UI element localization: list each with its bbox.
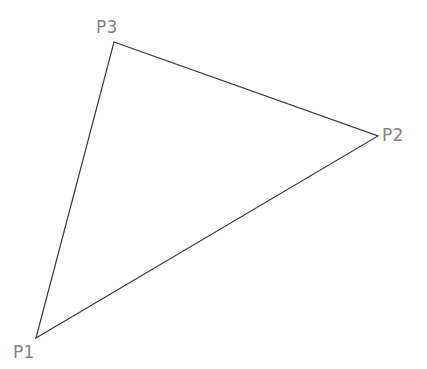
- vertex-label-p3: P3: [96, 19, 117, 36]
- triangle-diagram-canvas: P1 P2 P3: [0, 0, 427, 369]
- triangle-shape-svg: [0, 0, 427, 369]
- triangle-outline: [36, 42, 378, 338]
- vertex-label-p2: P2: [382, 127, 403, 144]
- vertex-label-p1: P1: [13, 344, 34, 361]
